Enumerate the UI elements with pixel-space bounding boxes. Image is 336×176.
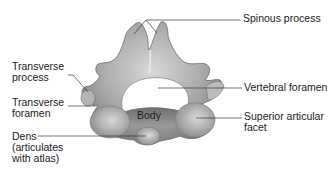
label-vertebral-foramen: Vertebral foramen xyxy=(244,82,327,93)
label-dens: Dens (articulates with atlas) xyxy=(12,131,63,164)
bone-shape xyxy=(81,22,224,145)
label-superior-articular-facet: Superior articular facet xyxy=(244,111,324,133)
label-transverse-process: Transverse process xyxy=(12,61,64,83)
label-spinous-process: Spinous process xyxy=(243,13,321,24)
label-body: Body xyxy=(137,109,161,121)
leader-spinous xyxy=(134,20,240,34)
label-transverse-foramen: Transverse foramen xyxy=(12,97,64,119)
vertebra-diagram: Spinous process Vertebral foramen Superi… xyxy=(0,0,336,176)
